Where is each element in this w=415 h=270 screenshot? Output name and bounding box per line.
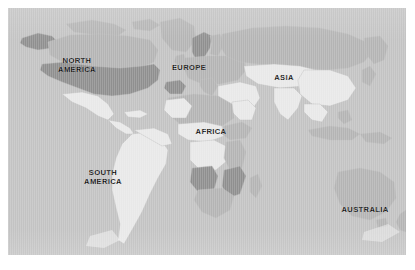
world-map-figure: .dk { fill:#8f8f8f; } .md { fill:#b4b4b4… (8, 8, 406, 255)
map-geography-layer: .dk { fill:#8f8f8f; } .md { fill:#b4b4b4… (8, 8, 406, 255)
